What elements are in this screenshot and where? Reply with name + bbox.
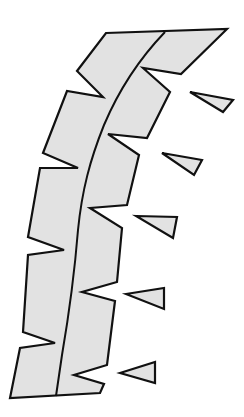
diagram-canvas [0,0,244,417]
triangle-piece-1 [190,92,233,112]
triangle-piece-5 [120,362,155,383]
notched-strip [10,29,227,398]
triangle-piece-3 [136,216,177,238]
triangle-piece-2 [162,153,202,175]
triangle-piece-4 [126,288,164,309]
